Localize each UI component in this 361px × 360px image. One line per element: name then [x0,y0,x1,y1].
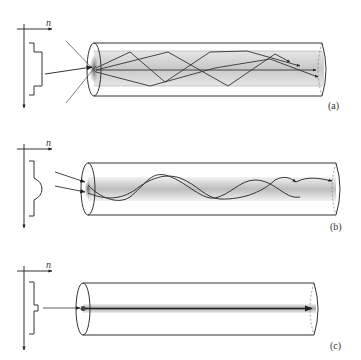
panel-label-a: (a) [328,100,339,111]
fiber-cylinder-a [87,43,326,96]
panel-b [17,144,340,228]
axis-label-n-c: n [46,259,51,270]
panel-c [17,266,318,350]
panel-label-c: (c) [330,340,341,351]
fiber-cylinder-b [81,163,340,215]
panel-a [17,24,326,108]
index-profile-a [17,24,52,108]
axis-label-n-b: n [46,137,51,148]
index-profile-b [17,144,52,228]
fiber-diagram [0,0,361,360]
panel-label-b: (b) [330,221,342,232]
axis-label-n-a: n [46,17,51,28]
